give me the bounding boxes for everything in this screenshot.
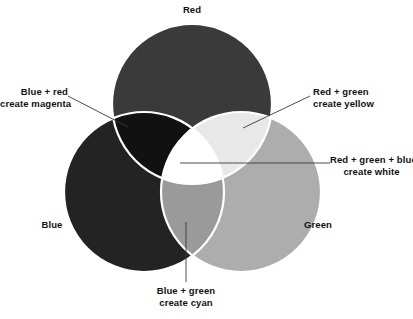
annotation-cyan: Blue + green create cyan: [141, 285, 231, 308]
annotation-yellow-line2: create yellow: [313, 98, 408, 110]
annotation-white-line2: create white: [330, 166, 413, 178]
label-blue: Blue: [28, 219, 76, 231]
annotation-magenta: Blue + red create magenta: [0, 86, 68, 109]
annotation-white-line1: Red + green + blue: [330, 154, 413, 166]
label-green: Green: [294, 219, 342, 231]
annotation-yellow: Red + green create yellow: [313, 86, 408, 109]
venn-diagram-figure: Red Blue Green Blue + red create magenta…: [0, 0, 413, 319]
annotation-magenta-line1: Blue + red: [0, 86, 68, 98]
annotation-cyan-line2: create cyan: [141, 297, 231, 309]
annotation-magenta-line2: create magenta: [0, 98, 68, 110]
annotation-yellow-line1: Red + green: [313, 86, 408, 98]
annotation-cyan-line1: Blue + green: [141, 285, 231, 297]
label-red: Red: [168, 4, 216, 16]
annotation-white: Red + green + blue create white: [330, 154, 413, 177]
